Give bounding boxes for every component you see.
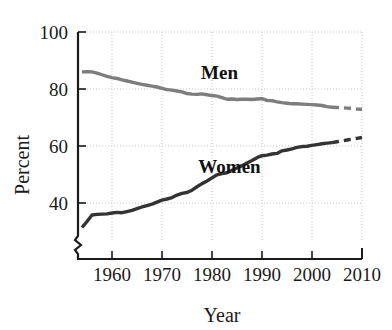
x-tick-label: 1960 — [93, 264, 131, 285]
series-label-women: Women — [198, 156, 261, 177]
chart-canvas: 196019701980199020002010406080100MenWome… — [0, 0, 392, 330]
x-axis-title: Year — [204, 304, 241, 326]
series-line-men-projected — [332, 107, 362, 109]
x-tick-label: 1980 — [193, 264, 231, 285]
series-label-men: Men — [201, 62, 238, 83]
x-tick-label: 2010 — [343, 264, 381, 285]
y-tick-label: 80 — [49, 79, 68, 100]
x-tick-label: 1970 — [143, 264, 181, 285]
y-axis-title: Percent — [11, 135, 33, 195]
y-tick-label: 60 — [49, 136, 68, 157]
y-tick-label: 40 — [49, 193, 68, 214]
x-tick-label: 1990 — [243, 264, 281, 285]
x-tick-label: 2000 — [293, 264, 331, 285]
labor-force-participation-chart: 196019701980199020002010406080100MenWome… — [0, 0, 392, 330]
y-tick-label: 100 — [40, 22, 69, 43]
